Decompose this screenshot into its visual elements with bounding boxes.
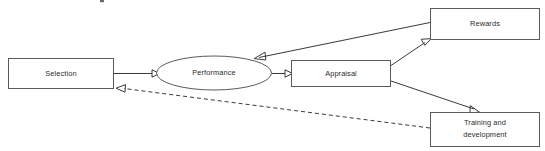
node-selection[interactable]: Selection: [9, 59, 114, 89]
node-training-label-line1: Training and: [464, 118, 506, 127]
diagram-svg: Selection Performance Appraisal Rewards …: [0, 0, 545, 151]
node-performance-label: Performance: [192, 68, 235, 77]
edge-appraisal-to-training: [391, 81, 480, 113]
node-rewards-label: Rewards: [470, 19, 500, 28]
node-appraisal-label: Appraisal: [325, 69, 357, 78]
node-rewards[interactable]: Rewards: [431, 9, 540, 40]
edge-appraisal-to-training-arrowhead: [470, 106, 480, 113]
edge-rewards-to-performance: [254, 23, 430, 61]
edge-performance-to-appraisal: [272, 70, 293, 77]
edge-training-to-selection-line: [124, 89, 430, 129]
crop-artifact-speck: [100, 0, 104, 2]
node-selection-label: Selection: [45, 69, 76, 78]
edge-training-to-selection: [116, 85, 430, 128]
node-training[interactable]: Training and development: [431, 113, 540, 147]
edge-appraisal-to-rewards-line: [391, 43, 425, 66]
node-appraisal[interactable]: Appraisal: [292, 61, 391, 87]
edge-appraisal-to-training-line: [391, 81, 474, 109]
diagram-canvas: Selection Performance Appraisal Rewards …: [0, 0, 545, 151]
edge-rewards-to-performance-line: [259, 23, 430, 58]
node-performance[interactable]: Performance: [157, 56, 272, 90]
node-training-label-line2: development: [463, 130, 506, 139]
edge-selection-to-performance: [113, 70, 160, 77]
edge-appraisal-to-rewards: [391, 39, 431, 66]
